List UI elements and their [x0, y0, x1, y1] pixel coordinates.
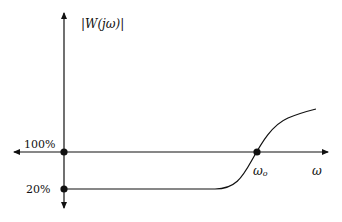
x-axis-label: ω — [312, 164, 322, 178]
level-label-20: 20% — [26, 183, 50, 196]
y-axis-label: |W(jω)| — [81, 17, 124, 31]
level-dot-20 — [60, 185, 67, 192]
frequency-response-diagram: |W(jω)| 100% 20% ωo ω — [0, 0, 342, 222]
level-label-100: 100% — [24, 138, 55, 151]
magnitude-curve — [64, 109, 316, 189]
origin-dot-100 — [60, 148, 67, 155]
crossover-label: ωo — [253, 164, 268, 178]
crossover-dot — [253, 148, 260, 155]
